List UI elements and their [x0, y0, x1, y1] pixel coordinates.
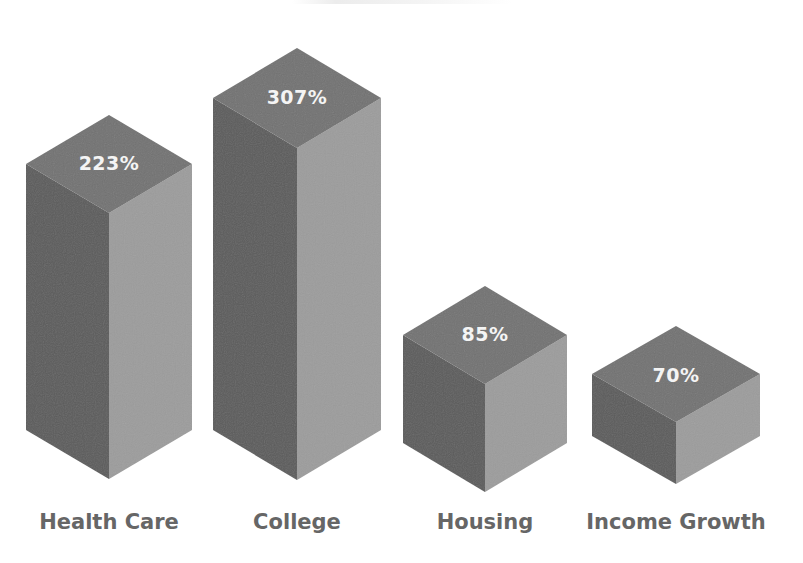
value-label: 307%: [267, 86, 328, 108]
bar-college: 307% College: [213, 48, 381, 534]
bar-health-care: 223% Health Care: [26, 115, 192, 534]
bar-left-face: [26, 164, 109, 479]
category-label: Housing: [437, 510, 534, 534]
value-label: 85%: [462, 323, 509, 345]
value-label: 70%: [653, 364, 700, 386]
category-label: Health Care: [39, 510, 179, 534]
value-label: 223%: [79, 152, 140, 174]
bar-left-face: [213, 98, 297, 480]
bar-right-face: [109, 164, 192, 479]
category-label: Income Growth: [586, 510, 765, 534]
bar-income-growth: 70% Income Growth: [586, 326, 765, 534]
chart-canvas: 223% Health Care 307% College 85% Housin…: [0, 0, 803, 563]
bar-housing: 85% Housing: [403, 286, 567, 534]
category-label: College: [253, 510, 341, 534]
bar-right-face: [297, 98, 381, 480]
isometric-bar-chart: 223% Health Care 307% College 85% Housin…: [0, 0, 803, 563]
